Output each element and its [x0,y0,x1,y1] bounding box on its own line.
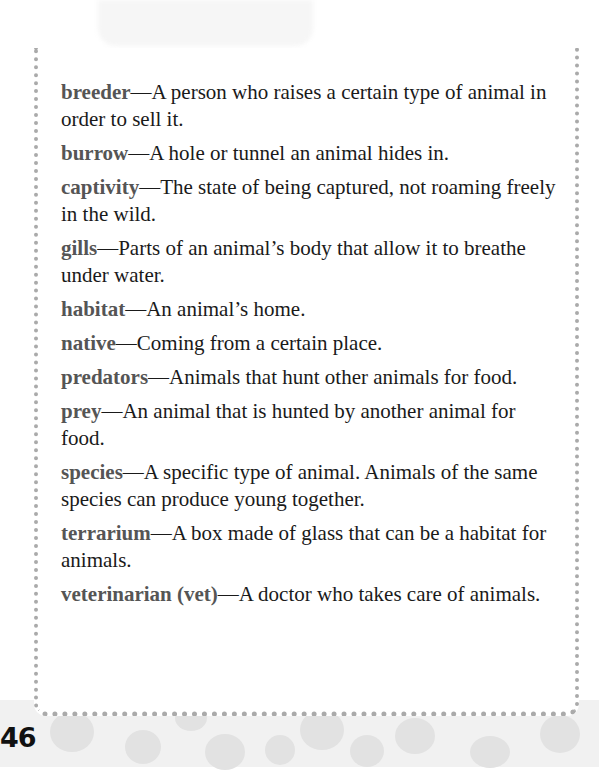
glossary-term: predators [61,365,148,389]
splat-decoration [50,712,94,752]
glossary-term: terrarium [61,521,151,545]
glossary-entry: terrarium—A box made of glass that can b… [61,520,561,574]
glossary-list: breeder—A person who raises a certain ty… [61,79,561,615]
glossary-entry: veterinarian (vet)—A doctor who takes ca… [61,581,561,608]
page-number: 46 [0,722,36,753]
glossary-term: breeder [61,80,131,104]
glossary-term: species [61,460,123,484]
page-smudge [98,0,313,46]
glossary-entry: predators—Animals that hunt other animal… [61,364,561,391]
glossary-definition: —A specific type of animal. Animals of t… [61,460,537,511]
glossary-term: habitat [61,297,125,321]
splat-decoration [265,735,295,765]
glossary-definition: —Parts of an animal’s body that allow it… [61,236,526,287]
splat-decoration [300,710,344,750]
glossary-entry: captivity—The state of being captured, n… [61,174,561,228]
splat-decoration [350,735,384,767]
glossary-entry: breeder—A person who raises a certain ty… [61,79,561,133]
glossary-definition: —A doctor who takes care of animals. [218,582,541,606]
glossary-entry: burrow—A hole or tunnel an animal hides … [61,140,561,167]
glossary-term: burrow [61,141,128,165]
splat-decoration [125,730,161,764]
glossary-entry: native—Coming from a certain place. [61,330,561,357]
glossary-entry: habitat—An animal’s home. [61,296,561,323]
splat-decoration [395,718,435,754]
glossary-term: native [61,331,116,355]
glossary-definition: —A hole or tunnel an animal hides in. [128,141,449,165]
splat-decoration [205,734,245,770]
glossary-entry: species—A specific type of animal. Anima… [61,459,561,513]
glossary-definition: —A person who raises a certain type of a… [61,80,546,131]
glossary-term: prey [61,399,101,423]
splat-decoration [540,715,580,753]
glossary-term: captivity [61,175,139,199]
splat-decoration [470,736,510,768]
glossary-definition: —Animals that hunt other animals for foo… [148,365,517,389]
glossary-term: gills [61,236,97,260]
glossary-definition: —An animal that is hunted by another ani… [61,399,516,450]
glossary-entry: prey—An animal that is hunted by another… [61,398,561,452]
glossary-definition: —Coming from a certain place. [116,331,383,355]
glossary-entry: gills—Parts of an animal’s body that all… [61,235,561,289]
glossary-definition: —An animal’s home. [125,297,305,321]
glossary-term: veterinarian (vet) [61,582,218,606]
